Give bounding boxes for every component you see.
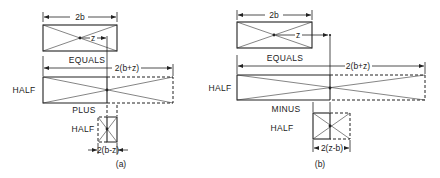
operator-label: MINUS <box>272 104 301 114</box>
big-width-label: 2(b+z) <box>346 61 370 71</box>
offset-label: z <box>91 33 95 43</box>
centroid-dot <box>106 89 109 92</box>
big-rectangle <box>237 75 425 100</box>
small-rectangle <box>313 113 350 139</box>
big-rectangle <box>43 77 173 103</box>
big-width-dimension: 2(b+z) <box>43 56 173 76</box>
small-half-label: HALF <box>271 123 294 133</box>
top-width-label: 2b <box>269 10 279 20</box>
equals-label: EQUALS <box>267 53 303 63</box>
equals-label: EQUALS <box>69 55 105 65</box>
panel-b: 2b z EQUALS 2(b+z) HALF <box>209 10 425 169</box>
top-width-label: 2b <box>75 12 85 22</box>
top-width-dimension: 2b <box>237 10 312 20</box>
small-half-label: HALF <box>72 124 95 134</box>
small-width-dimension: 2(b-z) <box>88 143 128 155</box>
operator-label: PLUS <box>72 105 95 115</box>
offset-label: z <box>296 30 300 40</box>
centroid-dot <box>329 87 332 90</box>
top-rectangle <box>237 22 312 48</box>
small-width-dimension: 2(z-b) <box>313 140 350 153</box>
panel-caption: (a) <box>116 159 127 169</box>
panel-a: 2b z EQUALS 2(b+z) HALF <box>13 12 173 169</box>
centroid-dot <box>106 128 109 131</box>
panel-caption: (b) <box>315 159 326 169</box>
centroid-dot <box>329 125 332 128</box>
small-width-label: 2(z-b) <box>321 143 343 153</box>
diagram-canvas: 2b z EQUALS 2(b+z) HALF <box>0 0 440 178</box>
big-half-label: HALF <box>13 85 36 95</box>
centroid-dot <box>79 37 82 40</box>
top-width-dimension: 2b <box>43 12 117 22</box>
big-half-label: HALF <box>209 83 232 93</box>
small-width-label: 2(b-z) <box>97 145 119 155</box>
big-width-label: 2(b+z) <box>115 63 139 73</box>
big-width-dimension: 2(b+z) <box>237 55 425 74</box>
centroid-dot <box>273 34 276 37</box>
small-rectangle <box>98 117 117 142</box>
